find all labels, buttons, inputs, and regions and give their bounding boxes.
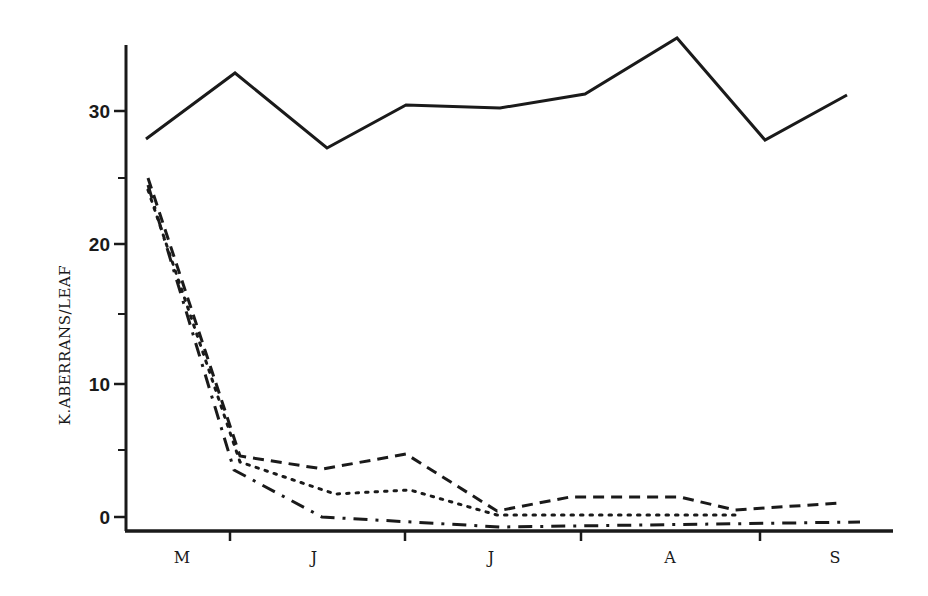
y-axis-title: K.ABERRANS/LEAF <box>56 265 74 425</box>
y-tick-label-10: 10 <box>89 374 110 395</box>
series-solid <box>146 38 847 148</box>
series-dash-dot <box>148 185 860 527</box>
y-tick-label-30: 30 <box>89 101 110 122</box>
series-dashed <box>148 178 840 511</box>
series-dotted <box>148 190 735 515</box>
y-tick-label-20: 20 <box>89 234 110 255</box>
y-axis <box>114 45 126 531</box>
line-chart: 30 20 10 0 M J J A S K.ABERRANS/LEAF <box>0 0 928 596</box>
x-axis <box>125 531 893 541</box>
x-label-july: J <box>486 548 494 567</box>
x-label-may: M <box>174 548 190 567</box>
x-label-september: S <box>830 548 841 567</box>
y-tick-label-0: 0 <box>99 507 110 528</box>
x-label-june: J <box>309 548 317 567</box>
x-label-august: A <box>663 548 676 567</box>
